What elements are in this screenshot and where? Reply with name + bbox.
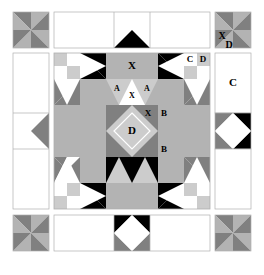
label-fourpatch-c: C [187, 54, 194, 64]
unit-four-patch-bottom-left [54, 183, 80, 209]
main-block: X C D A A X [54, 53, 210, 209]
border-top-center [54, 12, 210, 48]
corner-pinwheel-bottom-left [13, 215, 49, 251]
border-middle-right-bottom [215, 113, 251, 209]
label-center-a-left: A [114, 84, 120, 93]
label-center-top-x: X [128, 59, 136, 71]
corner-pinwheel-top-left [13, 12, 49, 48]
unit-four-patch-top-right: C D [184, 53, 210, 79]
corner-pinwheel-bottom-right [215, 215, 251, 251]
label-fourpatch-d: D [200, 54, 207, 64]
label-center-a-right: A [144, 84, 150, 93]
border-bottom-center [54, 215, 210, 251]
label-center-d: D [128, 124, 136, 136]
label-corner-d: D [225, 39, 232, 50]
label-center-x-upper: X [129, 91, 135, 100]
unit-four-patch-bottom-right [184, 183, 210, 209]
label-center-b-upper: B [161, 108, 167, 118]
corner-pinwheel-top-right: X D [215, 12, 251, 50]
quilt-block-diagram: X D C [0, 0, 264, 275]
border-middle-left [13, 53, 49, 209]
unit-four-patch-top-left [54, 53, 80, 79]
unit-side-square-left [54, 105, 106, 157]
label-center-x-mid: X [145, 108, 152, 118]
label-right-panel-c: C [229, 76, 237, 88]
label-center-b-lower: B [161, 144, 167, 154]
border-middle-right-top: C [215, 53, 251, 113]
